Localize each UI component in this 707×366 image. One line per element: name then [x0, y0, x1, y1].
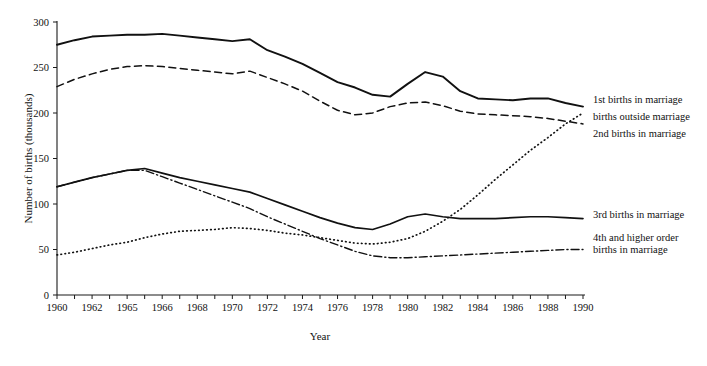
series-line-0	[57, 34, 583, 107]
y-tick-label: 300	[33, 17, 49, 28]
x-tick-label: 1970	[222, 302, 243, 313]
x-tick-label: 1986	[502, 302, 523, 313]
x-tick-label: 1984	[467, 302, 489, 313]
series-line-2	[57, 66, 583, 124]
x-tick-label: 1980	[397, 302, 418, 313]
y-tick-label: 100	[33, 199, 49, 210]
x-tick-label: 1972	[257, 302, 278, 313]
y-tick-label: 150	[33, 153, 49, 164]
y-tick-label: 0	[44, 290, 49, 301]
series-annotation-2: 2nd births in marriage	[593, 128, 686, 139]
x-tick-label: 1974	[292, 302, 314, 313]
x-tick-label: 1976	[327, 302, 348, 313]
series-line-4	[57, 170, 583, 257]
series-annotation-3: 3rd births in marriage	[593, 209, 685, 220]
x-tick-label: 1982	[432, 302, 453, 313]
x-axis-ticks	[57, 295, 583, 299]
births-line-chart: 050100150200250300 196019621965196619681…	[0, 0, 707, 366]
x-tick-label: 1990	[573, 302, 594, 313]
axes-group	[53, 21, 585, 299]
series-annotation-4-line-0: 4th and higher order	[593, 232, 679, 243]
y-tick-label: 50	[39, 244, 50, 255]
y-axis-ticks	[53, 22, 57, 295]
x-tick-label: 1988	[537, 302, 558, 313]
series-annotations-group: 1st births in marriagebirths outside mar…	[593, 94, 690, 255]
chart-canvas: 050100150200250300 196019621965196619681…	[0, 0, 707, 366]
series-annotation-1: births outside marriage	[593, 111, 690, 122]
x-tick-label: 1978	[362, 302, 383, 313]
y-tick-label: 250	[33, 62, 49, 73]
x-tick-label: 1960	[47, 302, 68, 313]
x-tick-label: 1968	[187, 302, 208, 313]
data-series-group	[57, 34, 583, 258]
x-tick-label: 1966	[152, 302, 173, 313]
series-annotation-0: 1st births in marriage	[593, 94, 683, 105]
series-line-1	[57, 113, 583, 255]
series-line-3	[57, 169, 583, 230]
x-tick-label: 1962	[82, 302, 103, 313]
y-axis-title: Number of births (thousands)	[22, 93, 35, 223]
x-tick-label: 1965	[117, 302, 138, 313]
x-axis-title: Year	[310, 330, 331, 342]
y-tick-label: 200	[33, 108, 49, 119]
y-axis-tick-labels: 050100150200250300	[33, 17, 49, 301]
x-axis-tick-labels: 1960196219651966196819701972197419761978…	[47, 302, 594, 313]
series-annotation-4-line-1: births in marriage	[593, 244, 668, 255]
